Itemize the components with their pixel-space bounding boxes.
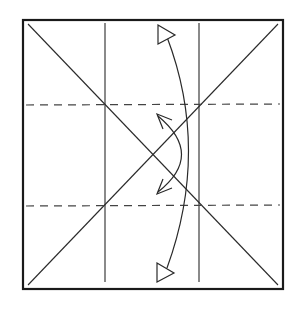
origami-diagram	[0, 0, 303, 310]
